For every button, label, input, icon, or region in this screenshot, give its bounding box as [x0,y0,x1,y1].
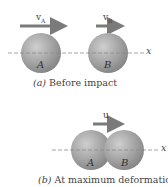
caption-max-deformation: (b) At maximum deformation [38,174,168,185]
sphere-b-deformed-label: B [121,157,128,168]
velocity-b-label: vB [103,12,113,24]
caption-before-impact: (a) Before impact [33,77,117,88]
impact-diagram [0,0,168,187]
sphere-a-deformed-label: A [87,157,94,168]
sphere-a-label: A [37,59,44,70]
panel-before-impact [8,26,144,73]
x-axis-label-b: x [161,142,166,153]
x-axis-label: x [146,45,151,56]
panel-max-deformation [52,124,158,170]
sphere-b-label: B [104,59,111,70]
velocity-u-label: u [103,110,109,120]
velocity-a-label: vA [36,12,45,24]
